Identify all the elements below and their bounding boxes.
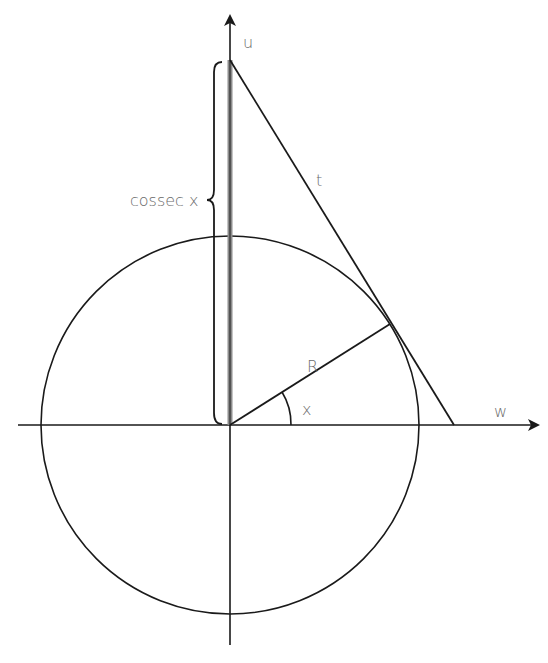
angle-label: x bbox=[302, 400, 311, 419]
tangent-line bbox=[230, 60, 454, 425]
cosec-brace bbox=[207, 62, 222, 424]
trig-diagram: u w t R x cossec x bbox=[0, 0, 548, 663]
cosec-label: cossec x bbox=[130, 191, 198, 210]
angle-arc bbox=[282, 392, 291, 425]
w-axis-label: w bbox=[494, 402, 507, 421]
radius-label: R bbox=[307, 357, 318, 376]
tangent-label: t bbox=[316, 171, 322, 190]
u-axis-label: u bbox=[243, 33, 253, 52]
